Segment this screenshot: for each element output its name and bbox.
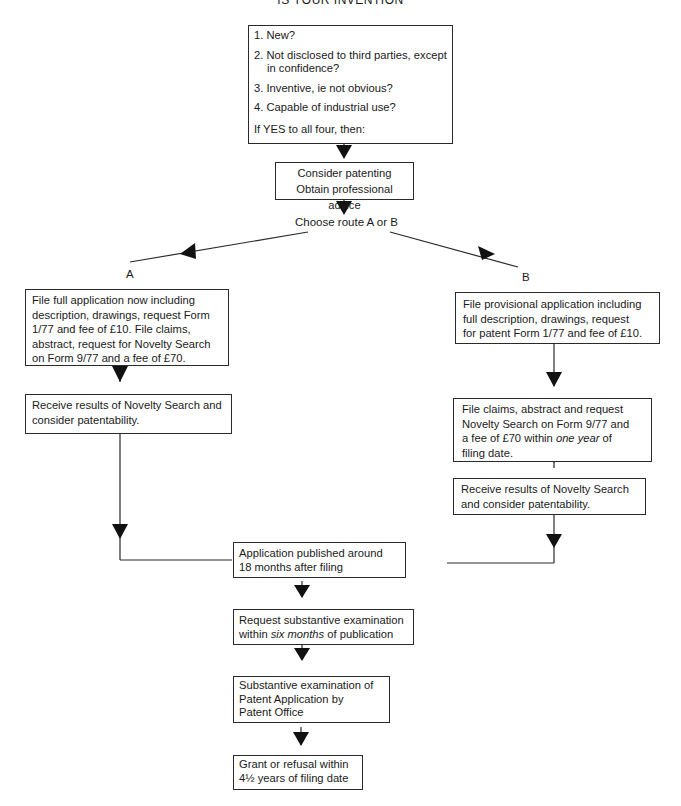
application-published-box: Application published around 18 months a…	[233, 542, 406, 578]
choose-route-label: Choose route A or B	[295, 216, 398, 228]
arrow-left-icon	[180, 243, 196, 259]
route-a-file-full-application-box: File full application now including desc…	[25, 289, 229, 366]
route-b-novelty-results-box: Receive results of Novelty Search and co…	[453, 478, 646, 515]
route-a-label: A	[126, 268, 134, 280]
criteria-questions-box: 1. New? 2. Not disclosed to third partie…	[248, 25, 453, 144]
arrow-down-icon	[546, 372, 562, 387]
arrow-right-icon	[478, 246, 495, 260]
route-b-file-provisional-box: File provisional application including f…	[455, 292, 660, 344]
consider-patenting-box: Consider patenting Obtain professional a…	[275, 162, 414, 200]
arrow-down-icon	[112, 524, 128, 539]
questions-conclusion: If YES to all four, then:	[254, 123, 447, 137]
arrow-down-icon	[336, 145, 352, 159]
arrow-down-icon	[294, 585, 310, 598]
route-b-file-claims-box: File claims, abstract and request Novelt…	[453, 398, 652, 462]
substantive-examination-box: Substantive examination of Patent Applic…	[233, 676, 390, 723]
question-4: 4. Capable of industrial use?	[254, 101, 447, 115]
route-a-novelty-results-box: Receive results of Novelty Search and co…	[25, 394, 232, 434]
arrow-down-icon	[112, 366, 128, 382]
question-1: 1. New?	[254, 29, 447, 43]
request-examination-box: Request substantive examination within s…	[233, 609, 414, 645]
question-2: 2. Not disclosed to third parties, excep…	[254, 49, 447, 76]
arrow-down-icon	[293, 732, 309, 746]
arrow-down-icon	[294, 648, 310, 661]
grant-or-refusal-box: Grant or refusal within 4½ years of fili…	[233, 755, 363, 790]
question-3: 3. Inventive, ie not obvious?	[254, 82, 447, 96]
route-b-label: B	[522, 271, 530, 283]
arrow-down-icon	[546, 534, 562, 548]
